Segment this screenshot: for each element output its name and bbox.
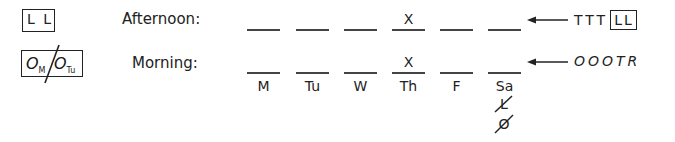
slot-underline [440,72,473,74]
afternoon-legend-text: L L [27,11,53,27]
day-label-f: F [440,78,473,94]
afternoon-sequence: TTTLL [574,10,637,30]
day-label-th: Th [392,78,425,94]
slot-underline [344,29,377,31]
strike-through-icon [492,94,516,114]
slot-underline [247,29,280,31]
afternoon-legend-box: L L [22,9,55,32]
morning-slot-w [344,34,377,74]
day-label-w: W [344,78,377,94]
afternoon-row-label: Afternoon: [122,10,200,28]
afternoon-slot-w [344,0,377,31]
day-label-tu: Tu [296,78,329,94]
slot-underline [488,72,521,74]
morning-slot-sa [488,34,521,74]
slot-underline [392,29,425,31]
morning-arrow-left-icon [527,57,569,67]
afternoon-slot-m [247,0,280,31]
morning-legend-slash-icon [40,43,64,85]
slot-underline [440,29,473,31]
morning-row-label: Morning: [132,54,198,72]
morning-sequence: OOOTR [574,53,640,69]
struck-letter-l: L [492,94,516,114]
day-label-m: M [247,78,280,94]
slot-underline [488,29,521,31]
struck-letter-o: O [492,114,516,134]
slot-mark: X [392,11,425,27]
afternoon-sequence-boxed: LL [610,10,637,30]
morning-slot-m [247,34,280,74]
morning-legend-right-sub: Tu [67,66,76,75]
afternoon-arrow-left-icon [527,15,569,25]
afternoon-slot-f [440,0,473,31]
afternoon-slot-th: X [392,0,425,31]
slot-underline [296,72,329,74]
afternoon-slot-sa [488,0,521,31]
slot-underline [296,29,329,31]
afternoon-slot-tu [296,0,329,31]
morning-slot-f [440,34,473,74]
slot-mark: X [392,54,425,70]
slot-underline [392,72,425,74]
slot-underline [344,72,377,74]
afternoon-sequence-text: TTT [574,12,608,28]
morning-slot-tu [296,34,329,74]
morning-slot-th: X [392,34,425,74]
morning-legend-left-letter: O [26,54,39,73]
morning-sequence-text: OOOTR [574,53,640,69]
slot-underline [247,72,280,74]
strike-through-icon [492,114,516,134]
day-label-sa: Sa [488,78,521,94]
